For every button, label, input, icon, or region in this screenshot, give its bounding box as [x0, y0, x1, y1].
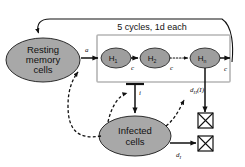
cycle-rate-label-3: c	[224, 65, 228, 73]
death-rate-h-label: dH(I)	[190, 86, 205, 95]
diagram-canvas: Resting memory cells Infected cells H1 H…	[0, 0, 245, 167]
death-rate-i-label: dI	[176, 151, 182, 160]
infected-cells-label-line1: Infected	[118, 125, 152, 136]
cycle-rate-label-2: c	[170, 64, 174, 72]
diagram-svg: Resting memory cells Infected cells H1 H…	[0, 0, 245, 167]
infection-rate-label: i	[139, 89, 141, 97]
resting-memory-cells-label-line3: cells	[33, 64, 52, 75]
infected-to-death-rate-edge	[166, 100, 184, 126]
infected-to-resting-edge	[68, 72, 101, 137]
cycles-caption: 5 cycles, 1d each	[117, 22, 187, 32]
cycle-rate-label-1: c	[131, 64, 135, 72]
activation-rate-label: a	[85, 46, 89, 54]
infected-cells-label-line2: cells	[125, 136, 144, 147]
